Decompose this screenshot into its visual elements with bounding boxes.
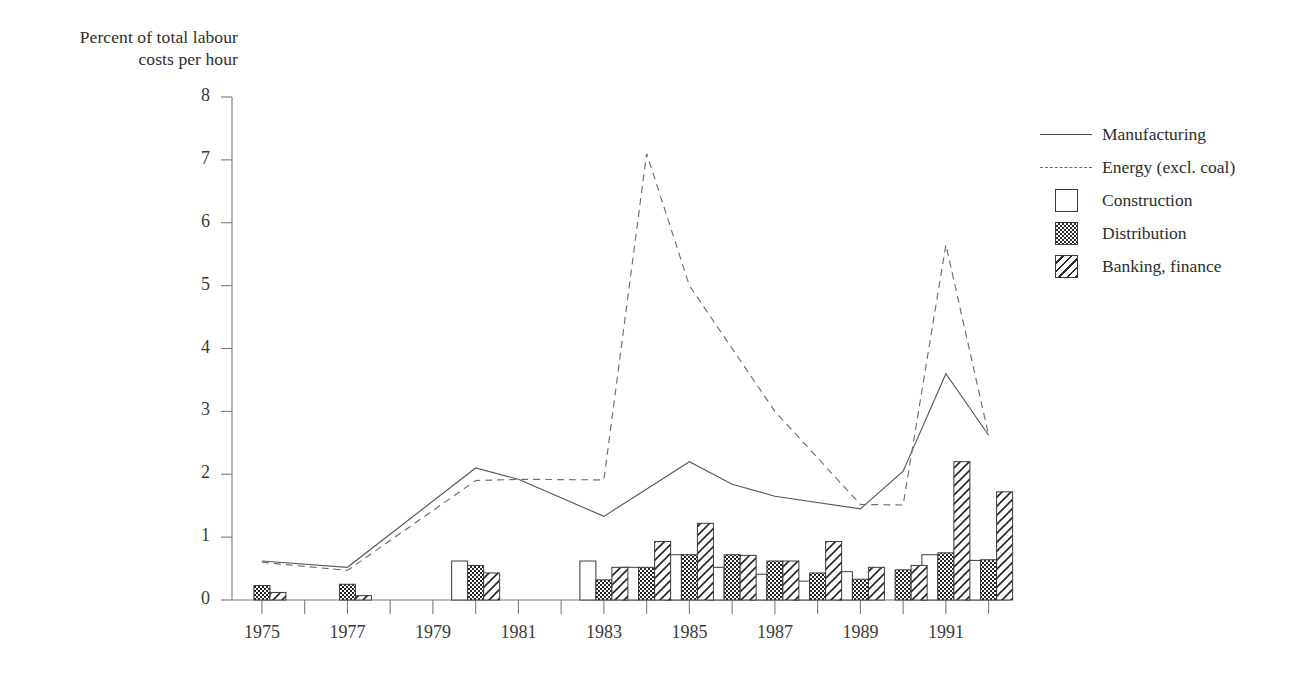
x-axis-tick-label: 1981 — [483, 622, 553, 643]
legend-item-label: Distribution — [1096, 223, 1187, 244]
bar-distribution — [810, 573, 826, 600]
bar-banking-finance — [826, 542, 842, 600]
bar-construction — [452, 561, 468, 600]
bar-distribution — [938, 553, 954, 600]
y-axis-tick-label: 0 — [184, 588, 210, 609]
bar-distribution — [767, 561, 783, 600]
bar-distribution — [724, 555, 740, 600]
bar-series-group — [254, 462, 1013, 600]
line-solid-icon — [1036, 122, 1096, 148]
y-axis-tick-label: 1 — [184, 525, 210, 546]
bar-banking-finance — [612, 567, 628, 600]
chart-figure: Percent of total labour costs per hour 0… — [0, 0, 1304, 674]
legend-item[interactable]: Banking, finance — [1036, 250, 1304, 283]
bar-banking-finance — [655, 542, 671, 600]
line-dashed-icon — [1036, 155, 1096, 181]
bar-banking-finance — [911, 565, 927, 600]
bar-distribution — [681, 555, 697, 600]
line-series-group — [262, 154, 989, 571]
x-axis-tick-label: 1977 — [312, 622, 382, 643]
legend-item-label: Energy (excl. coal) — [1096, 157, 1235, 178]
bar-distribution — [639, 567, 655, 600]
bar-banking-finance — [484, 573, 500, 600]
bar-distribution — [596, 580, 612, 600]
axis-spine — [232, 97, 1010, 600]
swatch-checker-icon-glyph — [1055, 222, 1078, 245]
bar-distribution — [895, 570, 911, 600]
legend-item-label: Manufacturing — [1096, 124, 1206, 145]
bar-banking-finance — [954, 462, 970, 600]
line-manufacturing — [262, 374, 989, 568]
x-axis-tick-label: 1979 — [398, 622, 468, 643]
x-axis-tick-label: 1983 — [569, 622, 639, 643]
swatch-empty-icon — [1036, 188, 1096, 214]
bar-banking-finance — [355, 596, 371, 600]
bar-banking-finance — [270, 592, 286, 600]
swatch-checker-icon — [1036, 221, 1096, 247]
swatch-empty-icon-glyph — [1055, 189, 1078, 212]
x-axis-tick-label: 1975 — [227, 622, 297, 643]
x-axis-tick-label: 1985 — [654, 622, 724, 643]
bar-distribution — [339, 584, 355, 600]
y-axis-tick-label: 6 — [184, 211, 210, 232]
legend-item[interactable]: Distribution — [1036, 217, 1304, 250]
bar-banking-finance — [783, 561, 799, 600]
line-energy-excl-coal — [262, 154, 989, 571]
y-axis-tick-label: 4 — [184, 337, 210, 358]
x-axis-tick-label: 1989 — [825, 622, 895, 643]
y-axis-tick-label: 2 — [184, 462, 210, 483]
legend-item[interactable]: Energy (excl. coal) — [1036, 151, 1304, 184]
x-axis-tick-label: 1987 — [740, 622, 810, 643]
bar-construction — [580, 561, 596, 600]
y-axis-tick-label: 7 — [184, 148, 210, 169]
bar-distribution — [254, 586, 270, 600]
legend-item[interactable]: Manufacturing — [1036, 118, 1304, 151]
bar-distribution — [468, 565, 484, 600]
y-axis-tick-label: 3 — [184, 399, 210, 420]
y-axis-tick-label: 8 — [184, 85, 210, 106]
chart-legend: ManufacturingEnergy (excl. coal)Construc… — [1036, 118, 1304, 283]
bar-banking-finance — [697, 523, 713, 600]
swatch-diagonal-icon-glyph — [1055, 255, 1078, 278]
bar-banking-finance — [997, 492, 1013, 600]
bar-distribution — [981, 560, 997, 600]
bar-banking-finance — [868, 567, 884, 600]
line-dashed-icon-glyph — [1040, 167, 1092, 168]
legend-item-label: Construction — [1096, 190, 1192, 211]
legend-item[interactable]: Construction — [1036, 184, 1304, 217]
y-axis-tick-label: 5 — [184, 274, 210, 295]
swatch-diagonal-icon — [1036, 254, 1096, 280]
bar-distribution — [852, 579, 868, 600]
bar-banking-finance — [740, 555, 756, 600]
legend-item-label: Banking, finance — [1096, 256, 1222, 277]
x-axis-tick-label: 1991 — [911, 622, 981, 643]
line-solid-icon-glyph — [1040, 134, 1092, 135]
